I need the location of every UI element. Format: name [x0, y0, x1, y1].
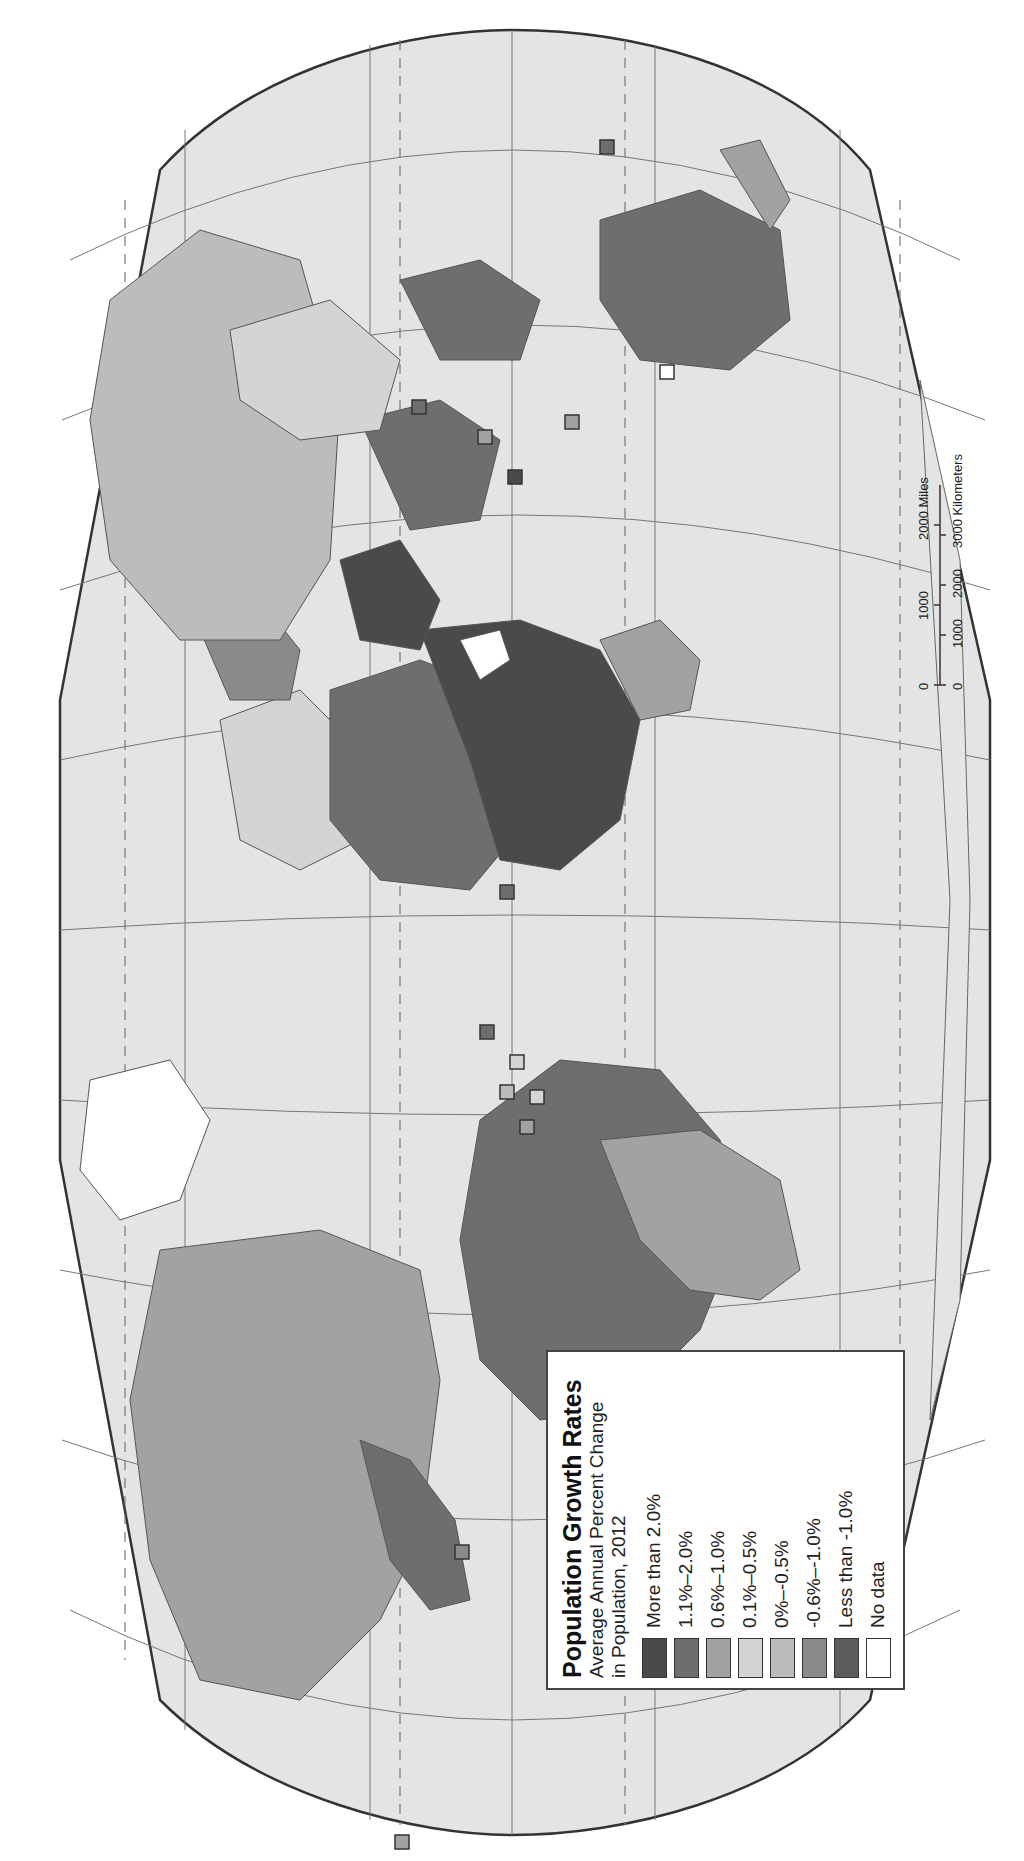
- legend-swatch: [770, 1638, 795, 1678]
- scale-km-1000: 1000: [950, 619, 965, 648]
- legend-label: -0.6%–-1.0%: [803, 1518, 825, 1628]
- legend-items: More than 2.0% 1.1%–2.0% 0.6%–1.0% 0.1%–…: [638, 1366, 894, 1678]
- legend-label: 0%–-0.5%: [771, 1540, 793, 1628]
- legend-swatch: [738, 1638, 763, 1678]
- scale-km-0: 0: [950, 683, 965, 690]
- scale-miles-1000: 1000: [916, 591, 931, 620]
- legend-item: No data: [862, 1366, 894, 1678]
- map-legend: Population Growth Rates Average Annual P…: [546, 1350, 905, 1690]
- scale-bar: 0 1000 2000 Miles 0 1000 2000 3000 Kilom…: [910, 470, 980, 700]
- legend-swatch: [866, 1638, 891, 1678]
- scale-miles-2000: 2000 Miles: [916, 477, 931, 540]
- legend-item: 0.1%–0.5%: [734, 1366, 766, 1678]
- legend-label: 1.1%–2.0%: [675, 1531, 697, 1628]
- legend-label: No data: [867, 1561, 889, 1628]
- legend-label: Less than -1.0%: [835, 1491, 857, 1628]
- legend-item: -0.6%–-1.0%: [798, 1366, 830, 1678]
- legend-label: 0.1%–0.5%: [739, 1531, 761, 1628]
- legend-item: Less than -1.0%: [830, 1366, 862, 1678]
- legend-item: More than 2.0%: [638, 1366, 670, 1678]
- legend-subtitle-line2: in Population, 2012: [608, 1366, 630, 1678]
- legend-item: 0.6%–1.0%: [702, 1366, 734, 1678]
- legend-label: More than 2.0%: [643, 1494, 665, 1628]
- legend-item: 1.1%–2.0%: [670, 1366, 702, 1678]
- scale-km-3000: 3000 Kilometers: [950, 454, 965, 548]
- legend-swatch: [642, 1638, 667, 1678]
- legend-swatch: [802, 1638, 827, 1678]
- legend-subtitle-line1: Average Annual Percent Change: [586, 1366, 608, 1678]
- legend-swatch: [834, 1638, 859, 1678]
- legend-swatch: [706, 1638, 731, 1678]
- legend-label: 0.6%–1.0%: [707, 1531, 729, 1628]
- scale-miles-0: 0: [916, 683, 931, 690]
- scale-km-2000: 2000: [950, 569, 965, 598]
- legend-swatch: [674, 1638, 699, 1678]
- legend-title: Population Growth Rates: [558, 1366, 586, 1678]
- legend-item: 0%–-0.5%: [766, 1366, 798, 1678]
